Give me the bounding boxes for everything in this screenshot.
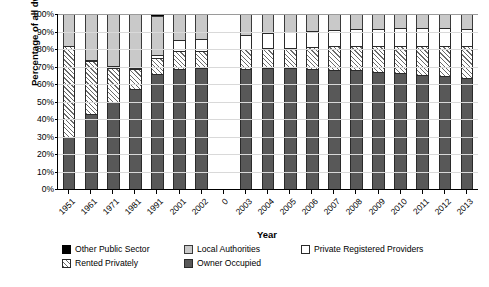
bar-segment-rented[interactable]	[85, 61, 98, 114]
x-tick-mark	[212, 189, 234, 195]
x-tick-label: 1971	[102, 197, 122, 217]
y-tick-mark	[55, 119, 58, 120]
bar-segment-prp[interactable]	[262, 33, 275, 48]
legend-label: Rented Privately	[75, 258, 138, 268]
x-label-slot: 1971	[101, 196, 123, 230]
x-label-slot: 2012	[433, 196, 455, 230]
x-tick-label: 2010	[389, 197, 409, 217]
x-tick-label: 2004	[256, 197, 276, 217]
gridline	[58, 84, 478, 85]
bar-segment-rented[interactable]	[394, 46, 407, 73]
legend-item[interactable]: Rented Privately	[62, 258, 184, 268]
legend-item[interactable]: Owner Occupied	[184, 258, 301, 268]
legend-item[interactable]: Local Authorities	[184, 244, 301, 254]
x-label-slot: 1961	[79, 196, 101, 230]
bar-segment-rented[interactable]	[461, 46, 474, 78]
chart-root: Percentage of all dwellings 0%10%20%30%4…	[0, 0, 489, 287]
bar-segment-la[interactable]	[129, 14, 142, 68]
y-tick-label: 70%	[20, 63, 54, 72]
bar-segment-rented[interactable]	[416, 46, 429, 75]
x-label-slot: 1981	[123, 196, 145, 230]
x-tick-label: 1981	[124, 197, 144, 217]
y-tick-mark	[55, 154, 58, 155]
bar-segment-rented[interactable]	[284, 48, 297, 69]
x-tick-mark	[256, 189, 278, 195]
x-tick-label: 2003	[234, 197, 254, 217]
bar-segment-owner[interactable]	[107, 102, 120, 189]
x-tick-label: 0	[220, 197, 230, 207]
y-tick-mark	[55, 172, 58, 173]
bar-segment-rented[interactable]	[129, 69, 142, 89]
bar-segment-la[interactable]	[350, 14, 363, 29]
bar-segment-la[interactable]	[461, 14, 474, 29]
x-tick-label: 2002	[190, 197, 210, 217]
x-tick-label: 1991	[146, 197, 166, 217]
x-tick-label: 2009	[367, 197, 387, 217]
x-label-slot: 0	[212, 196, 234, 230]
bar-segment-rented[interactable]	[262, 48, 275, 68]
bar-segment-rented[interactable]	[439, 46, 452, 77]
x-tick-mark	[123, 189, 145, 195]
gridline	[58, 119, 478, 120]
bar-segment-la[interactable]	[306, 14, 319, 31]
y-tick-label: 50%	[20, 98, 54, 107]
x-tick-mark	[411, 189, 433, 195]
y-tick-label: 90%	[20, 28, 54, 37]
legend-label: Private Registered Providers	[314, 244, 423, 254]
legend-item[interactable]: Private Registered Providers	[301, 244, 423, 254]
x-label-slot: 2009	[367, 196, 389, 230]
gridline	[58, 32, 478, 33]
legend-swatch-prp-icon	[301, 245, 310, 254]
x-tick-label: 1951	[57, 197, 77, 217]
x-label-slot: 2001	[168, 196, 190, 230]
legend-label: Local Authorities	[197, 244, 260, 254]
y-tick-label: 80%	[20, 45, 54, 54]
y-tick-mark	[55, 32, 58, 33]
bar-segment-la[interactable]	[284, 14, 297, 32]
bar-segment-prp[interactable]	[306, 31, 319, 47]
x-label-slot: 1991	[145, 196, 167, 230]
y-tick-mark	[55, 102, 58, 103]
bar-segment-la[interactable]	[195, 14, 208, 39]
x-tick-label: 2001	[168, 197, 188, 217]
bar-segment-rented[interactable]	[63, 46, 76, 137]
x-axis-labels: 1951196119711981199120012002020032004200…	[57, 196, 477, 230]
gridline	[58, 137, 478, 138]
x-tick-mark	[344, 189, 366, 195]
x-tick-label: 2008	[345, 197, 365, 217]
bar-segment-la[interactable]	[262, 14, 275, 33]
x-tick-mark	[57, 189, 79, 195]
bar-segment-prp[interactable]	[284, 32, 297, 48]
bar-segment-la[interactable]	[63, 14, 76, 46]
gridline	[58, 172, 478, 173]
bar-segment-la[interactable]	[372, 14, 385, 29]
bar-segment-owner[interactable]	[85, 114, 98, 189]
bar-segment-la[interactable]	[439, 14, 452, 28]
gridline	[58, 49, 478, 50]
x-label-slot: 2007	[322, 196, 344, 230]
x-label-slot: 2011	[411, 196, 433, 230]
bar-segment-la[interactable]	[394, 14, 407, 28]
legend-item[interactable]: Other Public Sector	[62, 244, 184, 254]
legend-label: Other Public Sector	[75, 244, 150, 254]
bar-segment-prp[interactable]	[240, 35, 253, 49]
bar-segment-la[interactable]	[85, 14, 98, 60]
x-tick-mark	[433, 189, 455, 195]
x-tick-label: 2007	[323, 197, 343, 217]
bar-segment-la[interactable]	[416, 14, 429, 28]
bar-segment-owner[interactable]	[129, 89, 142, 189]
y-tick-mark	[55, 67, 58, 68]
x-tick-mark	[79, 189, 101, 195]
x-tick-label: 2005	[278, 197, 298, 217]
bar-segment-la[interactable]	[107, 14, 120, 66]
x-label-slot: 2006	[300, 196, 322, 230]
y-tick-label: 10%	[20, 168, 54, 177]
bar-segment-la[interactable]	[328, 14, 341, 30]
bar-segment-rented[interactable]	[107, 68, 120, 103]
bar-segment-la[interactable]	[173, 14, 186, 40]
bar-segment-owner[interactable]	[63, 137, 76, 189]
x-tick-mark	[389, 189, 411, 195]
x-label-slot: 2008	[344, 196, 366, 230]
y-tick-label: 30%	[20, 133, 54, 142]
chart-legend: Other Public SectorLocal AuthoritiesPriv…	[62, 243, 462, 271]
